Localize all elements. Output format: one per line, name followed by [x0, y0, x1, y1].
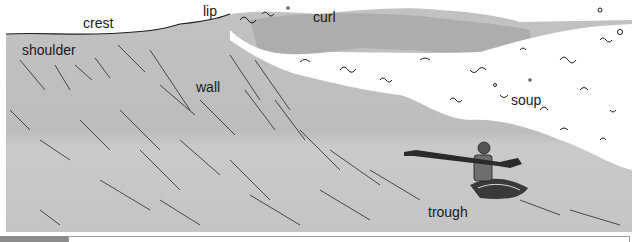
label-soup: soup [511, 93, 541, 107]
label-wall: wall [196, 80, 220, 94]
label-shoulder: shoulder [22, 43, 76, 57]
label-trough: trough [428, 205, 468, 219]
label-crest: crest [83, 16, 113, 30]
caption-tab [0, 236, 68, 242]
caption-strip [0, 236, 636, 242]
wave-diagram: crest lip curl shoulder wall soup trough [0, 0, 636, 234]
label-lip: lip [203, 4, 217, 18]
wave-illustration [0, 0, 636, 234]
caption-box [68, 236, 630, 242]
label-curl: curl [313, 10, 336, 24]
